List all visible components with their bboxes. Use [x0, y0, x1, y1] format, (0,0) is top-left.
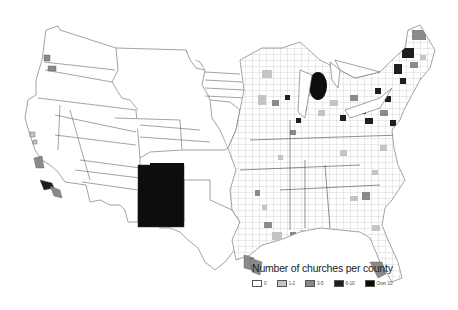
- legend-swatch: [277, 280, 287, 287]
- legend-item-0: 0: [252, 280, 267, 287]
- dense-region-block: [138, 165, 184, 227]
- legend-swatch: [334, 280, 344, 287]
- legend-item-3-5: 3-5: [305, 280, 324, 287]
- legend-label: 1-2: [289, 281, 296, 286]
- legend-title: Number of churches per county: [252, 262, 422, 274]
- legend-item-over-10: Over 10: [365, 280, 393, 287]
- legend-item-1-2: 1-2: [277, 280, 296, 287]
- legend-item-6-10: 6-10: [334, 280, 355, 287]
- legend-label: 3-5: [317, 281, 324, 286]
- map-legend: Number of churches per county 0 1-2 3-5 …: [252, 262, 422, 287]
- legend-swatch: [305, 280, 315, 287]
- legend-swatch: [252, 280, 262, 287]
- legend-label: Over 10: [377, 281, 393, 286]
- legend-label: 0: [264, 281, 267, 286]
- legend-label: 6-10: [346, 281, 355, 286]
- legend-swatch: [365, 280, 375, 287]
- legend-items: 0 1-2 3-5 6-10 Over 10: [252, 280, 422, 287]
